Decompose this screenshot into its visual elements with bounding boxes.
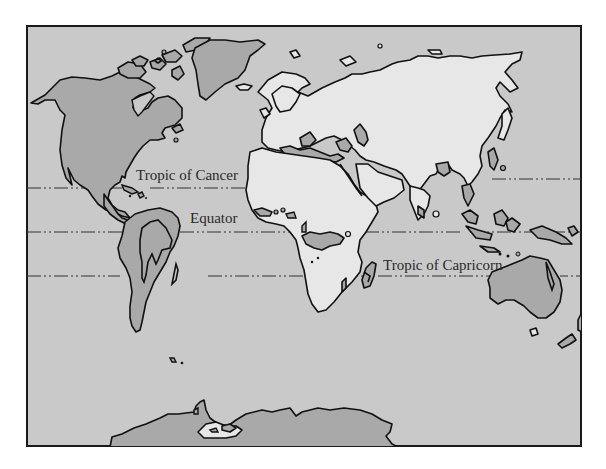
- north-america: [31, 72, 182, 218]
- world-map: [0, 0, 606, 469]
- tropic-of-cancer-label: Tropic of Cancer: [136, 168, 238, 183]
- tropic-of-capricorn-label: Tropic of Capricorn: [383, 258, 502, 273]
- new-zealand: [558, 334, 576, 348]
- south-america: [118, 208, 180, 332]
- equator-label: Equator: [190, 211, 237, 226]
- greenland: [192, 40, 265, 100]
- antarctica: [110, 400, 398, 447]
